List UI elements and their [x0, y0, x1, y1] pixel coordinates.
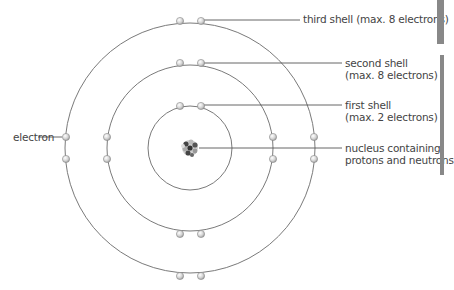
electron-icon: [176, 272, 183, 279]
leader-lines: [38, 20, 342, 148]
electron-icon: [176, 17, 183, 24]
electron-icon: [62, 133, 69, 140]
electron-icon: [310, 133, 317, 140]
electron-icon: [197, 230, 204, 237]
electron-icon: [103, 155, 110, 162]
electron-icon: [269, 133, 276, 140]
electron-icon: [176, 102, 183, 109]
nucleus-label: nucleus containing protons and neutrons: [345, 142, 454, 166]
electron-icon: [310, 155, 317, 162]
electron-icon: [197, 17, 204, 24]
second-shell-label-line2: (max. 8 electrons): [345, 69, 438, 81]
electron-icon: [197, 102, 204, 109]
electron-icon: [176, 230, 183, 237]
nucleus-label-line2: protons and neutrons: [345, 154, 454, 166]
electron-icon: [269, 155, 276, 162]
page-edge-tab-top: [437, 0, 444, 44]
electron-icon: [176, 59, 183, 66]
third-shell-label: third shell (max. 8 electrons): [303, 13, 449, 25]
nucleus-label-line1: nucleus containing: [345, 142, 454, 154]
first-shell-label: first shell (max. 2 electrons): [345, 99, 438, 123]
electron-icon: [197, 59, 204, 66]
second-shell-label: second shell (max. 8 electrons): [345, 57, 438, 81]
electron-icon: [62, 155, 69, 162]
first-shell-label-line1: first shell: [345, 99, 438, 111]
second-shell-label-line1: second shell: [345, 57, 438, 69]
electron-icon: [103, 133, 110, 140]
first-shell-label-line2: (max. 2 electrons): [345, 111, 438, 123]
nucleus-icon: [181, 140, 198, 157]
electron-icon: [197, 272, 204, 279]
electron-label: electron: [13, 131, 54, 143]
page-edge-tab-bottom: [440, 55, 444, 175]
